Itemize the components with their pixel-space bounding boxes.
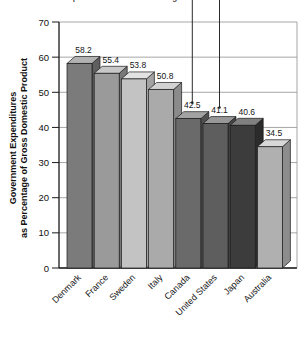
bar-side-face [282, 140, 290, 268]
y-axis-tick-label: 70 [38, 17, 49, 28]
leader-line-canada [191, 0, 194, 104]
y-axis-tick-label: 10 [38, 227, 49, 238]
y-axis-tick-label: 20 [38, 192, 49, 203]
bar-value-label: 42.5 [184, 100, 201, 110]
bar-value-label: 50.8 [157, 71, 174, 81]
category-label-denmark: Denmark [50, 272, 83, 305]
bar-front-face [67, 63, 92, 268]
y-axis-tick-label: 0 [44, 263, 49, 274]
bar-value-label: 40.6 [238, 107, 255, 117]
y-axis-tick-label: 50 [38, 87, 49, 98]
category-label-australia: Australia [241, 272, 273, 304]
bar-value-label: 53.8 [130, 60, 147, 70]
bar-value-label: 41.1 [211, 105, 228, 115]
bar-front-face [121, 79, 146, 268]
bar-value-label: 55.4 [102, 55, 119, 65]
category-label-italy: Italy [146, 272, 165, 291]
bar-value-label: 58.2 [75, 45, 92, 55]
bar-australia [257, 140, 290, 268]
bar-front-face [176, 119, 201, 268]
y-axis-ticks: 010203040506070 [38, 17, 59, 274]
y-axis-tick-label: 40 [38, 122, 49, 133]
bar-front-face [257, 147, 282, 268]
bar-chart: Government Expenditures as a Percentage … [0, 0, 304, 345]
category-labels: DenmarkFranceSwedenItalyCanadaUnited Sta… [50, 272, 273, 318]
category-label-japan: Japan [222, 272, 246, 296]
y-axis-tick-label: 60 [38, 52, 49, 63]
bar-front-face [230, 125, 255, 268]
bar-front-face [94, 73, 119, 268]
bar-front-face [203, 124, 228, 268]
bar-series [67, 56, 290, 268]
y-axis-tick-label: 30 [38, 157, 49, 168]
category-label-sweden: Sweden [107, 272, 137, 302]
bar-value-label: 34.5 [266, 128, 283, 138]
plot-area: 010203040506070 58.255.453.850.842.541.1… [0, 0, 304, 345]
bar-front-face [149, 89, 174, 268]
